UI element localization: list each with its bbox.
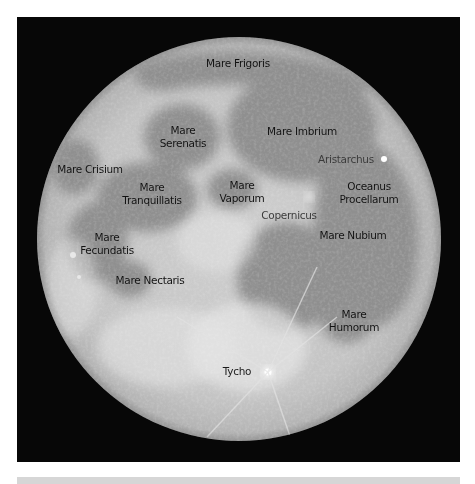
label-mare-fecundatis: Mare Fecundatis bbox=[80, 231, 134, 257]
copernicus-crater bbox=[304, 192, 314, 202]
label-mare-frigoris: Mare Frigoris bbox=[206, 57, 270, 70]
label-copernicus: Copernicus bbox=[261, 209, 316, 222]
label-mare-nubium: Mare Nubium bbox=[319, 229, 386, 242]
label-mare-serenatis: Mare Serenatis bbox=[160, 124, 207, 150]
label-mare-vaporum: Mare Vaporum bbox=[220, 179, 265, 205]
label-mare-imbrium: Mare Imbrium bbox=[267, 125, 337, 138]
bottom-gray-bar bbox=[17, 477, 460, 484]
label-oceanus-procellarum: Oceanus Procellarum bbox=[339, 180, 398, 206]
label-mare-humorum: Mare Humorum bbox=[329, 308, 379, 334]
aristarchus-crater bbox=[381, 156, 387, 162]
label-mare-nectaris: Mare Nectaris bbox=[116, 274, 185, 287]
label-tycho: Tycho bbox=[223, 365, 251, 378]
moon-photo-frame: Mare Frigoris Mare Serenatis Mare Imbriu… bbox=[17, 17, 460, 462]
label-mare-crisium: Mare Crisium bbox=[57, 163, 123, 176]
label-mare-tranquillatis: Mare Tranquillatis bbox=[122, 181, 181, 207]
label-aristarchus: Aristarchus bbox=[318, 153, 374, 166]
